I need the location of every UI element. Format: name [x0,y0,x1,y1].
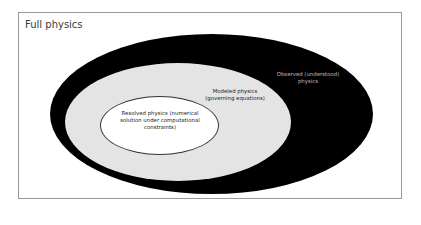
observed-physics-label: Observed (understood) physics [268,71,348,85]
resolved-physics-label: Resolved physics (numerical solution und… [106,110,214,131]
full-physics-label: Full physics [25,19,83,30]
modeled-physics-label: Modeled physics (governing equations) [202,88,268,102]
